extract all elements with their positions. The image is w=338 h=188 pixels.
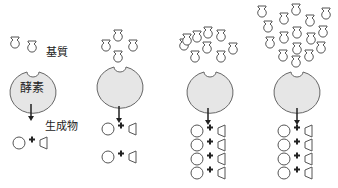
product-icon <box>191 167 225 180</box>
substrate-icon <box>264 21 273 32</box>
substrate-icon <box>258 6 267 17</box>
product-icon <box>278 153 312 166</box>
substrate-icon <box>266 37 275 48</box>
enzyme-icon <box>97 67 143 108</box>
substrate-label: 基質 <box>46 43 68 59</box>
substrate-icon <box>114 51 123 62</box>
product-icon <box>191 139 225 152</box>
substrate-icon <box>305 50 314 61</box>
substrate-icon <box>306 15 315 26</box>
substrate-icon <box>317 42 326 53</box>
substrate-icon <box>280 13 289 24</box>
substrate-icon <box>280 32 289 43</box>
substrate-icon <box>322 8 331 19</box>
substrate-icon <box>102 40 111 51</box>
substrate-icon <box>28 41 37 52</box>
substrate-icon <box>11 37 20 48</box>
substrate-icon <box>292 4 301 15</box>
product-icon <box>191 125 225 138</box>
substrate-icon <box>279 50 288 61</box>
product-icon <box>278 167 312 180</box>
substrate-icon <box>217 30 226 41</box>
substrate-icon <box>114 30 123 41</box>
enzyme-icon <box>274 72 320 113</box>
product-label: 生成物 <box>45 117 78 133</box>
enzyme-label: 酵素 <box>20 78 44 95</box>
product-icon <box>102 123 136 136</box>
substrate-icon <box>229 43 238 54</box>
substrate-icon <box>217 51 226 62</box>
enzyme-icon <box>187 72 233 113</box>
substrate-icon <box>204 27 213 38</box>
substrate-icon <box>293 27 302 38</box>
panel-4 <box>258 4 331 179</box>
substrate-icon <box>129 40 138 51</box>
substrate-icon <box>293 43 302 54</box>
enzyme-substrate-diagram: 基質 酵素 生成物 <box>0 0 338 188</box>
substrate-icon <box>292 56 301 67</box>
substrate-icon <box>307 33 316 44</box>
substrate-icon <box>193 31 202 42</box>
product-icon <box>102 151 136 164</box>
substrate-icon <box>203 42 212 53</box>
product-icon <box>278 139 312 152</box>
substrate-icon <box>191 51 200 62</box>
panel-3 <box>180 27 238 179</box>
product-icon <box>13 137 47 150</box>
panel-2 <box>97 30 143 163</box>
substrate-icon <box>319 26 328 37</box>
product-icon <box>278 125 312 138</box>
product-icon <box>191 153 225 166</box>
substrate-icon <box>183 34 192 45</box>
